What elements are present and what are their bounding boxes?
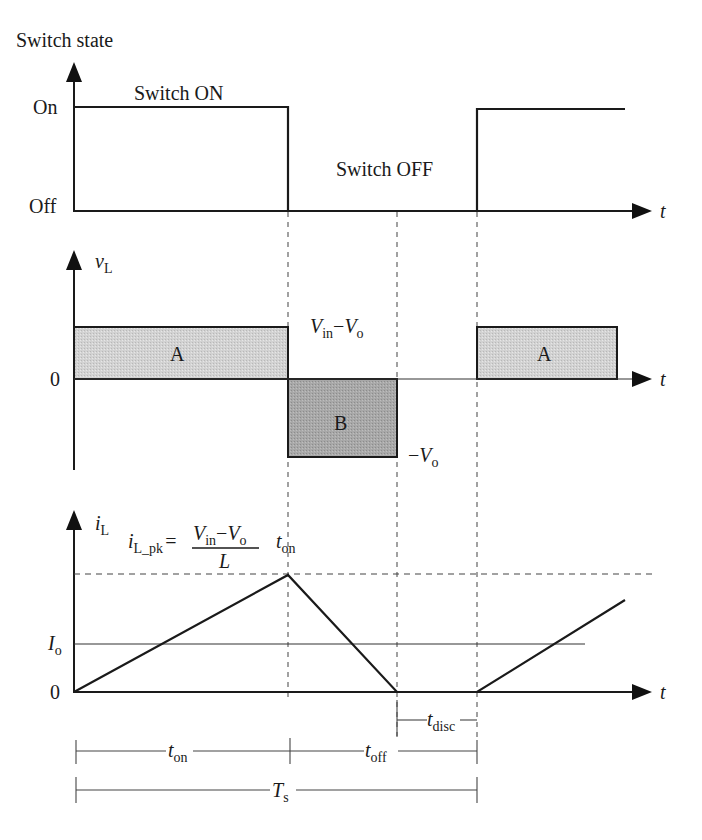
ts-label: Ts [272, 779, 289, 805]
inductor-current-waveform [74, 575, 625, 692]
switch-t-label: t [660, 200, 666, 222]
io-label: Io [47, 632, 62, 658]
level-off-label: Off [29, 195, 57, 217]
t-off-label: toff [365, 739, 387, 765]
y-arrow-icon [66, 62, 82, 82]
il-t-label: t [660, 681, 666, 703]
y-arrow-icon [66, 250, 82, 270]
time-guides [288, 212, 477, 740]
vl-t-label: t [660, 368, 666, 390]
area-b-label: B [334, 412, 347, 434]
t-disc-label: tdisc [427, 708, 455, 734]
t-arrow-icon [632, 684, 652, 700]
il-peak-denominator: L [218, 550, 230, 572]
switch-on-label: Switch ON [134, 82, 223, 104]
inductor-current-panel: iL iL_pk= Vin−Vo L ton Io 0 t [47, 510, 666, 703]
il-peak-time: ton [276, 530, 296, 556]
t-on-label: ton [168, 739, 188, 765]
t-arrow-icon [632, 371, 652, 387]
level-on-label: On [33, 96, 57, 118]
il-zero-label: 0 [50, 681, 60, 703]
inductor-voltage-panel: vL 0 t A B A Vin−Vo −Vo [50, 250, 666, 470]
y-arrow-icon [66, 510, 82, 530]
il-peak-equation: iL_pk= [128, 530, 176, 556]
vl-axis-label: vL [95, 250, 112, 276]
area-a-label-2: A [537, 343, 552, 365]
t-arrow-icon [632, 203, 652, 219]
il-peak-numerator: Vin−Vo [193, 522, 247, 548]
switch-off-label: Switch OFF [336, 158, 433, 180]
dcm-waveform-diagram: Switch state t On Off Switch ON Switch O… [0, 0, 702, 840]
switch-state-panel: Switch state t On Off Switch ON Switch O… [16, 29, 666, 222]
vl-positive-level-label: Vin−Vo [310, 315, 364, 341]
il-axis-label: iL [95, 512, 109, 538]
vl-zero-label: 0 [50, 368, 60, 390]
vl-negative-level-label: −Vo [408, 444, 439, 470]
area-a-label-1: A [170, 343, 185, 365]
timing-dimensions: tdisc ton toff Ts [76, 700, 477, 805]
switch-state-axis-label: Switch state [16, 29, 113, 51]
